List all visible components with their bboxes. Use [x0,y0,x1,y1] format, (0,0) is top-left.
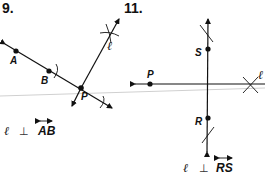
point-p-9 [78,85,84,91]
line-l-9-ext [72,88,81,106]
statement-11-perp: ⊥ [199,162,209,174]
page-fold-line [0,88,265,96]
label-b: B [41,75,48,86]
arc-mark [54,64,58,78]
statement-9-l: ℓ [4,124,9,138]
point-a [13,48,18,53]
line-ab [5,44,112,108]
arc-mark [200,25,213,42]
point-b [46,68,51,73]
statement-11-l: ℓ [183,161,188,175]
statement-9-ab: AB [37,124,56,138]
arc-mark [202,127,214,143]
statement-9-perp: ⊥ [19,125,29,137]
statement-11-rs: RS [216,161,233,175]
point-r [205,115,210,120]
label-p-9: P [81,91,88,102]
label-a: A [9,55,17,66]
label-r: R [195,116,203,127]
label-s: S [195,47,202,58]
label-p-11: P [147,69,154,80]
label-l-9: ℓ [107,39,112,53]
problem-9-figure: A B P ℓ ℓ ⊥ AB [4,19,119,138]
line-l-9 [81,19,119,88]
point-s [205,46,210,51]
point-p-11 [147,81,152,86]
label-l-11: ℓ [258,68,263,82]
line-rs [207,19,208,152]
geometry-figures: A B P ℓ ℓ ⊥ AB S P R ℓ ℓ ⊥ RS [0,0,265,177]
problem-11-figure: S P R ℓ ℓ ⊥ RS [135,19,265,175]
